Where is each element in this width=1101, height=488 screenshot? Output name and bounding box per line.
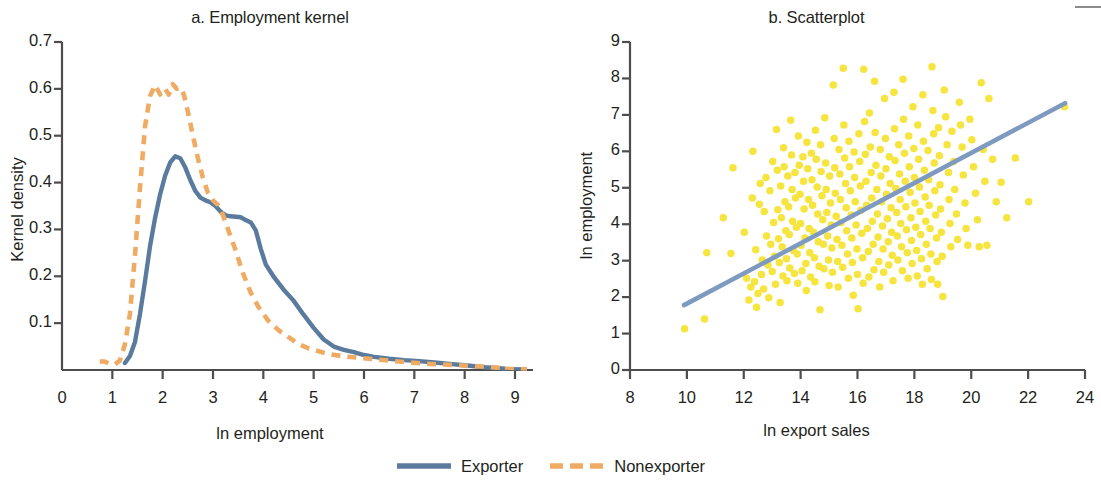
scatter-point: [917, 231, 925, 239]
scatter-point: [751, 278, 759, 286]
panel-a-y-tick-label: 0.6: [0, 78, 52, 97]
scatter-point: [873, 186, 881, 194]
scatter-point: [800, 177, 808, 185]
scatter-point: [865, 273, 873, 281]
scatter-point: [867, 143, 875, 151]
scatter-point: [785, 203, 793, 211]
scatter-point: [840, 64, 848, 72]
scatter-point: [895, 141, 903, 149]
scatter-point: [768, 268, 776, 276]
scatter-point: [1025, 198, 1033, 206]
panel-b-x-axis-title: ln export sales: [546, 421, 1087, 440]
scatter-point: [951, 186, 959, 194]
scatter-point: [977, 79, 985, 87]
panel-b-x-tick-label: 16: [836, 388, 880, 407]
scatter-point: [852, 221, 860, 229]
scatter-point: [942, 113, 950, 121]
scatter-point: [855, 130, 863, 138]
scatter-point: [903, 226, 911, 234]
panel-a-x-tick-label: 9: [495, 388, 535, 407]
scatter-point: [788, 151, 796, 159]
scatter-point: [901, 149, 909, 157]
scatter-point: [900, 116, 908, 124]
legend-swatch-solid-icon: [396, 460, 452, 472]
scatter-point: [913, 272, 921, 280]
scatter-point: [842, 204, 850, 212]
scatter-point: [813, 156, 821, 164]
scatter-point: [904, 274, 912, 282]
scatter-point: [919, 91, 927, 99]
scatter-point: [788, 186, 796, 194]
scatter-point: [820, 241, 828, 249]
panel-b-plot: [560, 0, 1101, 420]
scatter-point: [681, 325, 689, 333]
scatter-point: [891, 125, 899, 133]
scatter-point: [899, 267, 907, 275]
scatter-point: [851, 198, 859, 206]
panel-a-y-tick-label: 0.3: [0, 218, 52, 237]
scatter-point: [968, 136, 976, 144]
legend-item-nonexporter: Nonexporter: [549, 458, 705, 475]
scatter-point: [877, 172, 885, 180]
scatter-point: [827, 199, 835, 207]
scatter-point: [752, 246, 760, 254]
scatter-point: [1012, 154, 1020, 162]
panel-a-x-tick-label: 8: [445, 388, 485, 407]
scatter-point: [823, 209, 831, 217]
scatter-point: [929, 107, 937, 115]
scatter-point: [819, 216, 827, 224]
scatter-point: [876, 283, 884, 291]
scatter-point: [870, 266, 878, 274]
scatter-point: [893, 209, 901, 217]
scatter-point: [896, 170, 904, 178]
scatter-point: [919, 281, 927, 289]
scatter-point: [913, 247, 921, 255]
scatter-point: [975, 243, 983, 251]
scatter-point: [756, 200, 764, 208]
scatter-point: [774, 206, 782, 214]
scatter-point: [814, 210, 822, 218]
scatter-point: [972, 189, 980, 197]
scatter-point: [787, 117, 795, 125]
panel-a-x-tick-label: 4: [243, 388, 283, 407]
scatter-point: [866, 109, 874, 117]
scatter-point: [808, 149, 816, 157]
panel-a-x-axis-title: ln employment: [0, 424, 550, 443]
scatter-point: [932, 211, 940, 219]
scatter-point: [974, 216, 982, 224]
scatter-point: [836, 170, 844, 178]
scatter-point: [985, 95, 993, 103]
scatter-point: [832, 212, 840, 220]
scatter-point: [745, 296, 753, 304]
scatter-point: [908, 260, 916, 268]
scatter-point: [902, 203, 910, 211]
panel-a-series-nonexporter: [100, 84, 505, 368]
scatter-point: [802, 260, 810, 268]
scatter-point: [703, 249, 711, 257]
panel-scatterplot: b. Scatterplot ln employment ln export s…: [560, 0, 1101, 488]
scatter-point: [774, 167, 782, 175]
scatter-point: [773, 126, 781, 134]
scatter-point: [811, 254, 819, 262]
panel-b-x-tick-label: 20: [949, 388, 993, 407]
scatter-point: [765, 294, 773, 302]
scatter-point: [914, 121, 922, 129]
scatter-point: [882, 165, 890, 173]
scatter-point: [906, 188, 914, 196]
scatter-point: [834, 283, 842, 291]
scatter-point: [800, 205, 808, 213]
panel-b-y-tick-label: 4: [568, 213, 620, 232]
scatter-point: [826, 172, 834, 180]
scatter-point: [853, 245, 861, 253]
scatter-point: [869, 241, 877, 249]
scatter-point: [947, 243, 955, 251]
scatter-point: [910, 145, 918, 153]
scatter-point: [894, 232, 902, 240]
scatter-point: [875, 258, 883, 266]
scatter-point: [953, 210, 961, 218]
scatter-point: [869, 218, 877, 226]
scatter-point: [956, 98, 964, 106]
panel-a-y-tick-label: 0.7: [0, 31, 52, 50]
scatter-point: [921, 167, 929, 175]
scatter-point: [791, 270, 799, 278]
